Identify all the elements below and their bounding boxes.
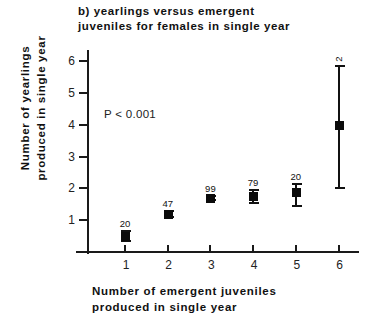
x-tick-label-3: 3 (201, 259, 221, 271)
y-tick-5 (79, 92, 88, 94)
y-tick-1 (79, 219, 88, 221)
x-tick-label-1: 1 (116, 259, 136, 271)
error-cap-upper (249, 189, 259, 191)
sample-size-label: 20 (286, 172, 306, 182)
x-tick-label-5: 5 (287, 259, 307, 271)
y-tick-label-4: 4 (58, 119, 75, 131)
data-point-marker (121, 232, 130, 241)
data-point-marker (292, 188, 301, 197)
x-tick-4 (252, 245, 254, 253)
data-point-marker (249, 192, 258, 201)
x-axis-line (76, 251, 359, 253)
sample-size-label: 20 (115, 219, 135, 229)
x-tick-1 (124, 245, 126, 253)
x-tick-6 (338, 245, 340, 253)
error-cap-lower (292, 205, 302, 207)
error-cap-lower (335, 187, 345, 189)
p-value-annotation: P < 0.001 (104, 108, 156, 120)
error-cap-lower (249, 202, 259, 204)
y-tick-3 (79, 156, 88, 158)
error-cap-upper (292, 183, 302, 185)
x-tick-5 (295, 245, 297, 253)
y-tick-label-1: 1 (58, 214, 75, 226)
y-axis-line (87, 50, 89, 254)
sample-size-label: 47 (158, 199, 178, 209)
sample-size-label: 2 (334, 49, 344, 69)
figure-panel: b) yearlings versus emergent juveniles f… (0, 0, 385, 324)
y-tick-label-5: 5 (58, 87, 75, 99)
x-tick-2 (167, 245, 169, 253)
x-tick-label-2: 2 (159, 259, 179, 271)
y-tick-2 (79, 187, 88, 189)
y-tick-label-6: 6 (58, 55, 75, 67)
y-tick-6 (79, 60, 88, 62)
x-tick-label-4: 4 (244, 259, 264, 271)
y-tick-4 (79, 124, 88, 126)
x-tick-label-6: 6 (330, 259, 350, 271)
data-point-marker (164, 210, 173, 219)
data-point-marker (335, 121, 344, 130)
data-point-marker (206, 194, 215, 203)
sample-size-label: 79 (243, 178, 263, 188)
y-tick-label-3: 3 (58, 151, 75, 163)
y-tick-label-2: 2 (58, 182, 75, 194)
sample-size-label: 99 (200, 184, 220, 194)
plot-area: 123456 123456 20479979202 P < 0.001 (0, 0, 385, 324)
x-tick-3 (209, 245, 211, 253)
